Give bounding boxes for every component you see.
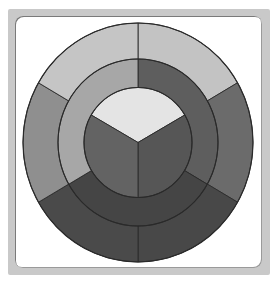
inner-circle: [84, 87, 192, 197]
tonal-wheel-diagram: [0, 0, 276, 283]
